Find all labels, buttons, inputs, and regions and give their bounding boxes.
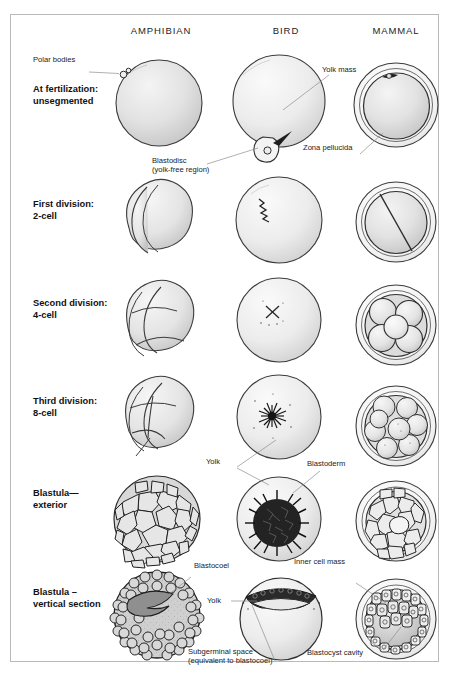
- leader-polar-bodies: [89, 72, 119, 74]
- annotation-subgerminal-space: Subgerminal space (equivalent to blastoc…: [188, 647, 272, 665]
- annotation-yolk-section: Yolk: [207, 596, 221, 605]
- annotation-zona-pellucida: Zona pellucida: [303, 143, 352, 152]
- annotation-blastocoel: Blastocoel: [194, 561, 229, 570]
- bird-fertilized-egg: [233, 55, 325, 147]
- annotation-blastodisc: Blastodisc (yolk-free region): [152, 156, 209, 174]
- amphibian-2-cell: [127, 179, 193, 253]
- leader-blastodisc: [207, 148, 258, 164]
- mammal-blastula-exterior: [356, 481, 436, 561]
- annotation-polar-bodies: Polar bodies: [33, 55, 75, 64]
- mammal-2-cell: [356, 182, 436, 262]
- bird-2-cell: [236, 177, 322, 263]
- annotation-yolk-blastula: Yolk: [206, 457, 220, 466]
- bird-blastula-exterior: [237, 477, 321, 561]
- mammal-8-cell-morula: [356, 386, 436, 466]
- mammal-4-cell: [356, 285, 436, 365]
- figure-frame: AMPHIBIAN BIRD MAMMAL At fertilization: …: [10, 14, 439, 662]
- leader-yolk-blastula: [237, 468, 269, 485]
- bird-4-cell: [237, 278, 321, 362]
- bird-8-cell: [237, 375, 321, 459]
- amphibian-8-cell: [126, 376, 194, 456]
- amphibian-blastula-exterior: [114, 476, 200, 568]
- annotation-blastocyst-cavity: Blastocyst cavity: [307, 648, 363, 657]
- annotation-blastoderm: Blastoderm: [307, 459, 345, 468]
- annotation-yolk-mass: Yolk mass: [322, 65, 356, 74]
- amphibian-4-cell: [127, 280, 194, 356]
- annotation-inner-cell-mass: Inner cell mass: [294, 557, 345, 566]
- mammal-fertilized-egg: [354, 63, 438, 147]
